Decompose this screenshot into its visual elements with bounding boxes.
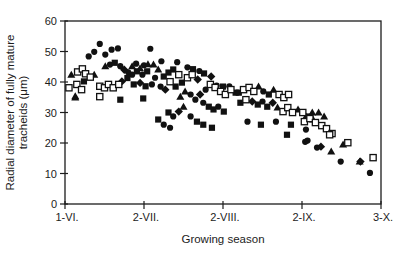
data-point-open-square bbox=[97, 94, 103, 100]
data-point-filled-circle bbox=[174, 59, 180, 65]
data-point-filled-circle bbox=[367, 170, 373, 176]
y-axis-title-line1: Radial diameter of fully mature bbox=[4, 35, 16, 191]
y-axis-tick-label: 30 bbox=[45, 107, 57, 119]
data-point-filled-square bbox=[284, 132, 290, 138]
data-point-open-square bbox=[189, 72, 195, 78]
data-point-filled-circle bbox=[86, 53, 92, 59]
data-point-filled-square bbox=[112, 60, 118, 66]
data-point-filled-square bbox=[264, 104, 270, 110]
x-axis-tick-label: 2-VII. bbox=[133, 211, 159, 223]
data-point-filled-square bbox=[258, 122, 264, 128]
data-point-filled-circle bbox=[147, 46, 153, 52]
x-axis-tick-label: 3-X. bbox=[373, 211, 393, 223]
scatter-chart: 01020304050601-VI.2-VII.2-VIII.2-IX.3-X.… bbox=[0, 0, 408, 264]
data-point-open-square bbox=[300, 109, 306, 115]
data-point-filled-circle bbox=[200, 100, 206, 106]
x-axis-tick-label: 2-IX. bbox=[292, 211, 315, 223]
data-point-filled-circle bbox=[244, 119, 250, 125]
data-point-filled-square bbox=[140, 95, 146, 101]
data-point-filled-circle bbox=[188, 91, 194, 97]
data-point-open-square bbox=[327, 132, 333, 138]
data-point-filled-square bbox=[210, 106, 216, 112]
data-point-filled-square bbox=[200, 122, 206, 128]
data-point-open-square bbox=[116, 81, 122, 87]
data-point-filled-triangle bbox=[149, 61, 157, 68]
data-point-open-square bbox=[167, 79, 173, 85]
data-point-filled-triangle bbox=[315, 109, 323, 116]
data-point-filled-square bbox=[124, 75, 130, 81]
data-point-filled-square bbox=[165, 109, 171, 115]
data-point-filled-circle bbox=[304, 137, 310, 143]
data-point-filled-triangle bbox=[71, 94, 79, 101]
data-point-filled-square bbox=[209, 125, 215, 131]
data-point-filled-triangle bbox=[308, 109, 316, 116]
data-point-filled-circle bbox=[188, 113, 194, 119]
y-axis-title-line2: tracheids (μm) bbox=[17, 75, 29, 149]
y-axis-tick-label: 10 bbox=[45, 168, 57, 180]
data-point-open-square bbox=[312, 119, 318, 125]
data-point-open-square bbox=[251, 88, 257, 94]
data-point-filled-circle bbox=[152, 75, 158, 81]
data-point-filled-circle bbox=[192, 97, 198, 103]
data-point-filled-square bbox=[155, 116, 161, 122]
data-point-filled-circle bbox=[109, 47, 115, 53]
data-point-filled-circle bbox=[158, 58, 164, 64]
data-point-filled-circle bbox=[184, 64, 190, 70]
data-point-open-square bbox=[345, 140, 351, 146]
x-axis-tick-label: 2-VIII. bbox=[210, 211, 239, 223]
data-point-filled-triangle bbox=[327, 148, 335, 155]
data-point-filled-circle bbox=[102, 51, 108, 57]
data-point-filled-square bbox=[144, 68, 150, 74]
data-point-open-square bbox=[285, 91, 291, 97]
data-point-filled-circle bbox=[115, 45, 121, 51]
data-point-filled-square bbox=[131, 81, 137, 87]
x-axis-tick-label: 1-VI. bbox=[55, 211, 78, 223]
data-point-filled-circle bbox=[161, 122, 167, 128]
data-point-open-square bbox=[87, 74, 93, 80]
data-point-filled-circle bbox=[303, 126, 309, 132]
y-axis-tick-label: 40 bbox=[45, 76, 57, 88]
data-point-filled-circle bbox=[91, 49, 97, 55]
data-point-open-square bbox=[78, 87, 84, 93]
data-point-filled-square bbox=[255, 101, 261, 107]
y-axis-tick-label: 50 bbox=[45, 46, 57, 58]
data-point-filled-diamond bbox=[207, 72, 215, 80]
x-axis-title: Growing season bbox=[181, 233, 264, 245]
data-point-open-square bbox=[370, 155, 376, 161]
data-point-filled-square bbox=[194, 119, 200, 125]
data-point-open-square bbox=[243, 97, 249, 103]
y-axis-tick-label: 0 bbox=[51, 198, 57, 210]
data-point-open-square bbox=[66, 85, 72, 91]
y-axis-tick-label: 60 bbox=[45, 15, 57, 27]
data-point-filled-circle bbox=[273, 119, 279, 125]
data-point-filled-square bbox=[81, 78, 87, 84]
data-point-filled-square bbox=[221, 108, 227, 114]
data-point-open-square bbox=[289, 109, 295, 115]
data-point-filled-square bbox=[201, 70, 207, 76]
data-point-filled-circle bbox=[97, 41, 103, 47]
data-point-filled-square bbox=[288, 122, 294, 128]
data-point-filled-triangle bbox=[181, 87, 189, 94]
plot-area: 01020304050601-VI.2-VII.2-VIII.2-IX.3-X. bbox=[45, 15, 393, 223]
data-point-open-square bbox=[176, 72, 182, 78]
data-point-filled-square bbox=[142, 83, 148, 89]
data-point-filled-circle bbox=[149, 81, 155, 87]
y-axis-tick-label: 20 bbox=[45, 137, 57, 149]
data-point-filled-circle bbox=[167, 125, 173, 131]
data-point-filled-circle bbox=[338, 159, 344, 165]
figure: 01020304050601-VI.2-VII.2-VIII.2-IX.3-X.… bbox=[0, 0, 408, 264]
data-point-open-square bbox=[228, 87, 234, 93]
data-point-filled-triangle bbox=[180, 103, 188, 110]
data-point-filled-square bbox=[117, 97, 123, 103]
